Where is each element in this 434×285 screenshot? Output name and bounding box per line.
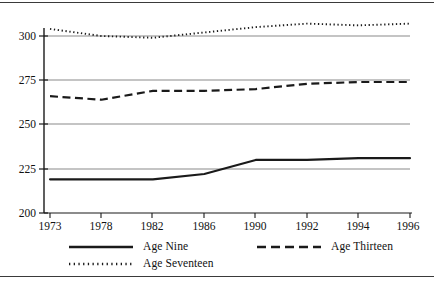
x-tick-label-1973: 1973 (39, 220, 62, 232)
series-line-age-thirteen (50, 82, 410, 100)
x-tick-marks (50, 213, 410, 218)
x-tick-label-1994: 1994 (347, 220, 370, 232)
top-divider-rule (0, 2, 434, 3)
legend-swatch-dashed-icon (256, 241, 322, 253)
y-tick-label-275: 275 (19, 74, 37, 86)
data-series-layer (50, 24, 410, 180)
x-tick-label-1986: 1986 (193, 220, 216, 232)
legend-label-age-nine: Age Nine (143, 240, 188, 253)
bottom-divider-rule (0, 276, 434, 277)
y-tick-label-200: 200 (19, 207, 37, 219)
legend-row-first: Age Nine Age Thirteen (0, 238, 434, 255)
x-tick-label-1982: 1982 (141, 220, 164, 232)
x-tick-label-1990: 1990 (244, 220, 267, 232)
gridlines (44, 36, 410, 169)
legend-item-age-nine[interactable]: Age Nine (68, 238, 188, 255)
x-axis-tick-labels: 1973 1978 1982 1986 1990 1992 1994 1996 (39, 220, 420, 232)
y-axis-tick-labels: 300 275 250 225 200 (19, 30, 37, 219)
y-tick-label-250: 250 (19, 118, 37, 130)
line-chart-svg: 300 275 250 225 200 1973 1978 1982 1986 … (0, 8, 434, 236)
legend-item-age-seventeen[interactable]: Age Seventeen (68, 255, 214, 272)
legend-swatch-dotted-icon (68, 258, 134, 270)
legend-label-age-seventeen: Age Seventeen (143, 257, 214, 270)
x-tick-label-1978: 1978 (90, 220, 113, 232)
legend-item-age-thirteen[interactable]: Age Thirteen (256, 238, 393, 255)
chart-legend: Age Nine Age Thirteen Age Seventeen (0, 238, 434, 274)
legend-swatch-solid-icon (68, 241, 134, 253)
legend-label-age-thirteen: Age Thirteen (331, 240, 393, 253)
legend-row-second: Age Seventeen (0, 255, 434, 272)
y-tick-label-225: 225 (19, 163, 37, 175)
plot-area: 300 275 250 225 200 1973 1978 1982 1986 … (0, 8, 434, 236)
x-tick-label-1996: 1996 (397, 220, 420, 232)
x-tick-label-1992: 1992 (296, 220, 319, 232)
figure-container: 300 275 250 225 200 1973 1978 1982 1986 … (0, 0, 434, 285)
y-tick-label-300: 300 (19, 30, 37, 42)
